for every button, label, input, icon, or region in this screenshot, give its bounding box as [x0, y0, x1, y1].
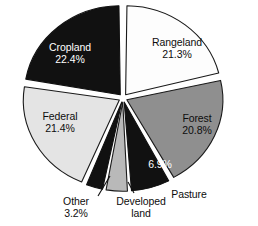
slice-label-developed-land: Developed land — [105, 196, 177, 220]
other-label-text: Other — [52, 196, 100, 208]
slice-label-cropland: Cropland 22.4% — [30, 42, 110, 66]
federal-label-text: Federal — [24, 111, 96, 123]
cropland-label-text: Cropland — [30, 42, 110, 54]
slice-value-pasture: 6.9% — [139, 159, 181, 171]
forest-label-text: Forest — [166, 113, 228, 125]
slice-label-other: Other 3.2% — [52, 196, 100, 220]
pasture-value-text: 6.9% — [139, 159, 181, 171]
slice-label-rangeland: Rangeland 21.3% — [136, 37, 218, 61]
slice-label-forest: Forest 20.8% — [166, 113, 228, 137]
pie-chart-figure: Cropland 22.4% Rangeland 21.3% Forest 20… — [0, 0, 258, 226]
developed-land-label-line1: Developed — [105, 196, 177, 208]
developed-land-label-line2: land — [105, 208, 177, 220]
rangeland-label-text: Rangeland — [136, 37, 218, 49]
forest-value-text: 20.8% — [166, 125, 228, 137]
federal-value-text: 21.4% — [24, 123, 96, 135]
rangeland-value-text: 21.3% — [136, 49, 218, 61]
pie-slices-group — [23, 6, 223, 191]
cropland-value-text: 22.4% — [30, 54, 110, 66]
other-value-text: 3.2% — [52, 208, 100, 220]
slice-label-federal: Federal 21.4% — [24, 111, 96, 135]
